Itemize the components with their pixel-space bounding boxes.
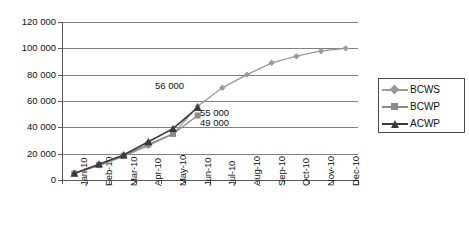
legend-label-acwp: ACWP — [408, 118, 440, 129]
legend-label-bcws: BCWS — [408, 84, 440, 95]
legend-label-bcwp: BCWP — [408, 101, 440, 112]
data-point-marker — [342, 45, 348, 51]
y-axis-tick-label: 0 — [51, 174, 56, 185]
legend-item-acwp[interactable]: ACWP — [379, 115, 466, 132]
legend-marker-triangle-icon — [382, 118, 408, 130]
legend-item-bcws[interactable]: BCWS — [379, 81, 466, 98]
legend-marker-diamond-icon — [382, 84, 408, 96]
x-axis-tick — [62, 180, 63, 184]
y-axis-tick-label: 20 000 — [27, 148, 56, 159]
data-point-marker — [318, 48, 324, 54]
data-point-marker — [244, 71, 250, 77]
chart-container: 020 00040 00060 00080 000100 000120 000 … — [0, 0, 469, 241]
y-axis-tick-label: 40 000 — [27, 121, 56, 132]
y-axis-tick-label: 60 000 — [27, 95, 56, 106]
y-axis-tick-label: 80 000 — [27, 69, 56, 80]
legend-item-bcwp[interactable]: BCWP — [379, 98, 466, 115]
chart-legend: BCWS BCWP ACWP — [378, 78, 465, 133]
y-axis-tick-label: 100 000 — [22, 42, 56, 53]
data-point-marker — [293, 53, 299, 59]
data-point-marker — [268, 60, 274, 66]
plot-area — [62, 22, 358, 180]
data-label: 49 000 — [200, 117, 229, 128]
legend-marker-square-icon — [382, 101, 408, 113]
series-lines — [62, 22, 358, 180]
data-label: 56 000 — [155, 80, 184, 91]
series-line-acwp — [74, 108, 197, 174]
y-axis-tick-label: 120 000 — [22, 16, 56, 27]
